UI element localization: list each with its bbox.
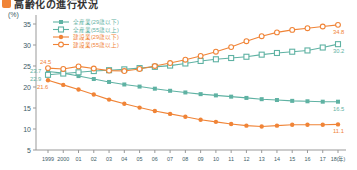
series-marker-1 [320,45,325,50]
series-marker-3 [259,34,264,39]
y-tick-label: 15 [23,105,31,112]
series-marker-1 [290,49,295,54]
series-marker-0 [214,93,218,97]
series-marker-3 [76,64,81,69]
series-marker-0 [244,96,248,100]
series-marker-1 [244,54,249,59]
y-tick-label: 35 [23,21,31,28]
x-tick-label: 2000 [57,156,69,162]
series-marker-2 [153,109,157,113]
series-marker-0 [92,77,96,81]
series-marker-2 [198,118,202,122]
series-marker-0 [290,99,294,103]
legend-marker [59,35,63,39]
x-tick-label: 1999 [42,156,54,162]
series-marker-1 [305,48,310,53]
x-tick-label: 04 [121,156,127,162]
series-marker-0 [183,90,187,94]
series-marker-3 [61,67,66,72]
chart-title: 高齢化の進行状況 [2,0,98,11]
series-marker-2 [183,115,187,119]
series-marker-2 [61,83,65,87]
series-marker-3 [336,22,341,27]
series-marker-2 [259,124,263,128]
series-marker-3 [244,39,249,44]
y-tick-label: 10 [23,126,31,133]
x-tick-label: 05 [137,156,143,162]
series-marker-1 [274,50,279,55]
series-marker-2 [305,123,309,127]
series-marker-0 [260,97,264,101]
series-marker-0 [168,89,172,93]
series-marker-3 [152,64,157,69]
legend-label: 全産業(55歳以上) [73,26,119,34]
data-label: 16.5 [333,106,344,112]
series-marker-0 [199,92,203,96]
series-marker-0 [275,98,279,102]
series-marker-3 [213,49,218,54]
legend-label: 建設業(55歳以上) [73,41,119,49]
x-tick-label: 07 [167,156,173,162]
series-marker-0 [107,80,111,84]
series-marker-2 [137,105,141,109]
series-marker-0 [138,85,142,89]
series-marker-2 [46,78,50,82]
series-marker-2 [290,123,294,127]
series-marker-2 [76,87,80,91]
series-marker-0 [153,87,157,91]
series-marker-1 [336,42,341,47]
data-label: 11.1 [333,128,344,134]
x-tick-label: 08 [182,156,188,162]
series-marker-3 [305,26,310,31]
series-marker-0 [229,95,233,99]
chart-plot-area: (%)3530252015105199920000102030405060708… [0,0,357,170]
series-marker-1 [259,52,264,57]
series-marker-0 [122,82,126,86]
series-marker-3 [107,68,112,73]
series-marker-2 [107,97,111,101]
legend-label: 建設業(29歳以下) [73,33,119,41]
series-marker-3 [198,54,203,59]
x-tick-label: 10 [213,156,219,162]
series-marker-3 [320,24,325,29]
series-line-0 [48,71,338,101]
x-tick-label: 14 [274,156,280,162]
series-marker-2 [229,122,233,126]
data-label: 23.7 [30,68,41,74]
series-marker-3 [46,66,51,71]
x-tick-label: 03 [106,156,112,162]
series-marker-2 [214,120,218,124]
series-marker-1 [76,70,81,75]
series-marker-3 [91,66,96,71]
x-tick-label: 18(年) [331,155,346,163]
x-tick-label: 01 [76,156,82,162]
x-tick-label: 13 [259,156,265,162]
title-bullet-icon [2,0,11,8]
series-marker-2 [321,123,325,127]
series-marker-2 [168,112,172,116]
legend-marker [59,42,64,47]
legend-marker [59,20,63,24]
series-marker-2 [275,123,279,127]
x-tick-label: 11 [228,156,234,162]
series-marker-3 [290,27,295,32]
legend-label: 全産業(29歳以下) [73,18,119,26]
series-marker-1 [198,58,203,63]
series-marker-3 [168,61,173,66]
x-tick-label: 09 [198,156,204,162]
series-marker-0 [321,100,325,104]
series-marker-3 [275,30,280,35]
x-tick-label: 16 [304,156,310,162]
series-marker-0 [336,100,340,104]
y-axis-unit-label: (%) [8,11,19,19]
series-marker-2 [122,102,126,106]
series-line-2 [48,80,338,126]
legend-marker [59,27,64,32]
y-tick-label: 20 [23,84,31,91]
x-tick-label: 12 [243,156,249,162]
aging-rate-line-chart: 高齢化の進行状況 (%)3530252015105199920000102030… [0,0,357,170]
series-marker-3 [137,67,142,72]
data-label: 30.2 [333,48,344,54]
data-label: 21.6 [37,84,48,90]
x-tick-label: 02 [91,156,97,162]
